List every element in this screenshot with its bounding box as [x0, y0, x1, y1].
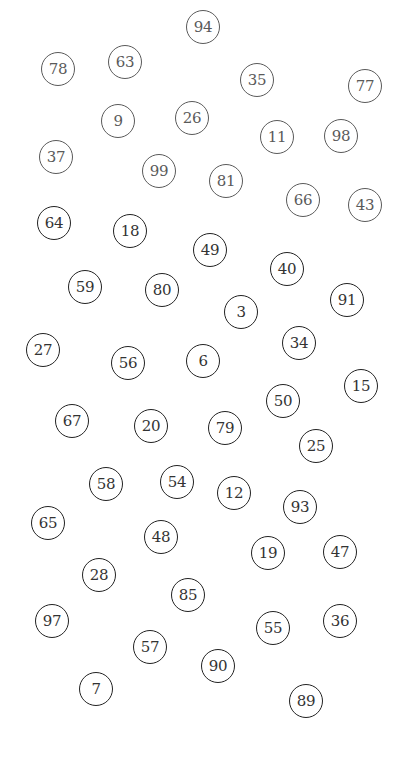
number-label: 63 — [116, 55, 135, 70]
number-circle-49[interactable]: 49 — [193, 233, 227, 267]
number-circle-55[interactable]: 55 — [256, 611, 290, 645]
number-label: 37 — [47, 150, 66, 165]
number-label: 7 — [91, 682, 100, 697]
number-label: 78 — [49, 62, 68, 77]
number-label: 79 — [216, 421, 235, 436]
number-circle-9[interactable]: 9 — [101, 104, 135, 138]
number-circle-36[interactable]: 36 — [323, 604, 357, 638]
number-label: 59 — [76, 280, 95, 295]
number-label: 28 — [90, 568, 109, 583]
number-label: 85 — [179, 588, 198, 603]
number-circle-34[interactable]: 34 — [282, 326, 316, 360]
number-label: 19 — [259, 546, 278, 561]
number-circle-15[interactable]: 15 — [344, 369, 378, 403]
number-circle-85[interactable]: 85 — [171, 578, 205, 612]
number-label: 25 — [307, 439, 326, 454]
number-circle-11[interactable]: 11 — [260, 120, 294, 154]
number-circle-78[interactable]: 78 — [41, 52, 75, 86]
number-label: 64 — [45, 216, 64, 231]
number-label: 58 — [97, 477, 116, 492]
number-circle-57[interactable]: 57 — [133, 630, 167, 664]
number-circle-94[interactable]: 94 — [186, 10, 220, 44]
number-circle-6[interactable]: 6 — [186, 344, 220, 378]
number-label: 66 — [294, 193, 313, 208]
number-circle-47[interactable]: 47 — [323, 535, 357, 569]
number-circle-59[interactable]: 59 — [68, 270, 102, 304]
number-label: 90 — [209, 659, 228, 674]
number-circle-18[interactable]: 18 — [113, 214, 147, 248]
number-label: 20 — [142, 419, 161, 434]
number-circle-58[interactable]: 58 — [89, 467, 123, 501]
number-circle-37[interactable]: 37 — [39, 140, 73, 174]
number-circle-54[interactable]: 54 — [160, 465, 194, 499]
number-circle-64[interactable]: 64 — [37, 206, 71, 240]
number-circle-3[interactable]: 3 — [224, 295, 258, 329]
number-label: 6 — [198, 354, 207, 369]
number-circle-27[interactable]: 27 — [26, 333, 60, 367]
number-label: 26 — [183, 111, 202, 126]
number-label: 34 — [290, 336, 309, 351]
number-label: 91 — [338, 293, 357, 308]
number-circle-81[interactable]: 81 — [209, 164, 243, 198]
number-label: 80 — [153, 283, 172, 298]
number-circle-40[interactable]: 40 — [270, 252, 304, 286]
number-circle-56[interactable]: 56 — [111, 346, 145, 380]
number-circle-25[interactable]: 25 — [299, 429, 333, 463]
number-label: 94 — [194, 20, 213, 35]
number-circle-20[interactable]: 20 — [134, 409, 168, 443]
number-circle-80[interactable]: 80 — [145, 273, 179, 307]
number-circle-89[interactable]: 89 — [289, 684, 323, 718]
number-label: 77 — [356, 79, 375, 94]
number-label: 40 — [278, 262, 297, 277]
number-circle-97[interactable]: 97 — [35, 604, 69, 638]
number-circle-7[interactable]: 7 — [79, 672, 113, 706]
number-circle-48[interactable]: 48 — [144, 520, 178, 554]
number-label: 49 — [201, 243, 220, 258]
number-label: 81 — [217, 174, 236, 189]
number-label: 55 — [264, 621, 283, 636]
number-label: 3 — [236, 305, 245, 320]
number-circle-12[interactable]: 12 — [217, 476, 251, 510]
number-circle-35[interactable]: 35 — [240, 63, 274, 97]
number-circle-79[interactable]: 79 — [208, 411, 242, 445]
number-label: 98 — [332, 129, 351, 144]
number-circle-65[interactable]: 65 — [31, 506, 65, 540]
number-label: 15 — [352, 379, 371, 394]
number-circle-19[interactable]: 19 — [251, 536, 285, 570]
number-label: 47 — [331, 545, 350, 560]
number-label: 43 — [356, 198, 375, 213]
number-label: 54 — [168, 475, 187, 490]
number-label: 35 — [248, 73, 267, 88]
number-circle-66[interactable]: 66 — [286, 183, 320, 217]
number-circle-91[interactable]: 91 — [330, 283, 364, 317]
number-label: 50 — [274, 394, 293, 409]
number-circle-67[interactable]: 67 — [55, 404, 89, 438]
number-circle-26[interactable]: 26 — [175, 101, 209, 135]
number-label: 48 — [152, 530, 171, 545]
number-label: 9 — [113, 114, 122, 129]
number-label: 99 — [150, 164, 169, 179]
number-circle-99[interactable]: 99 — [142, 154, 176, 188]
number-label: 57 — [141, 640, 160, 655]
number-circle-93[interactable]: 93 — [283, 490, 317, 524]
number-circle-98[interactable]: 98 — [324, 119, 358, 153]
number-label: 97 — [43, 614, 62, 629]
number-label: 89 — [297, 694, 316, 709]
number-label: 27 — [34, 343, 53, 358]
number-circle-50[interactable]: 50 — [266, 384, 300, 418]
number-label: 67 — [63, 414, 82, 429]
number-circle-90[interactable]: 90 — [201, 649, 235, 683]
number-circle-28[interactable]: 28 — [82, 558, 116, 592]
number-circle-43[interactable]: 43 — [348, 188, 382, 222]
number-label: 93 — [291, 500, 310, 515]
number-label: 11 — [268, 130, 287, 145]
number-circle-63[interactable]: 63 — [108, 45, 142, 79]
number-label: 18 — [121, 224, 140, 239]
number-label: 65 — [39, 516, 58, 531]
number-circle-canvas: 78 63 94 35 77 9 26 11 98 37 99 81 66 43… — [0, 0, 406, 761]
number-circle-77[interactable]: 77 — [348, 69, 382, 103]
number-label: 12 — [225, 486, 244, 501]
number-label: 56 — [119, 356, 138, 371]
number-label: 36 — [331, 614, 350, 629]
